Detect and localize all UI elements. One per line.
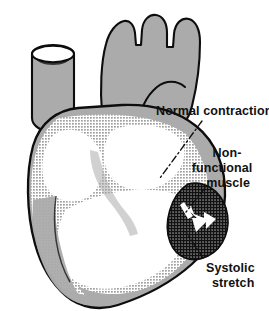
label-systolic-stretch-line-2: stretch	[212, 276, 254, 290]
label-normal-contraction-line-1: Normal contraction	[156, 104, 269, 118]
cut-vessel-lumen	[32, 46, 74, 62]
label-non-functional-muscle-line-2: functional	[192, 161, 253, 175]
label-systolic-stretch-line-1: Systolic	[206, 261, 255, 275]
label-non-functional-muscle-line-1: Non-	[213, 146, 242, 160]
heart-illustration: Normal contraction Non- functional muscl…	[0, 0, 269, 311]
heart-diagram-figure: Normal contraction Non- functional muscl…	[0, 0, 269, 311]
label-non-functional-muscle-line-3: muscle	[206, 176, 250, 190]
infarct-group	[167, 183, 228, 259]
label-systolic-stretch: Systolic stretch	[206, 261, 258, 290]
label-normal-contraction: Normal contraction	[156, 104, 269, 118]
